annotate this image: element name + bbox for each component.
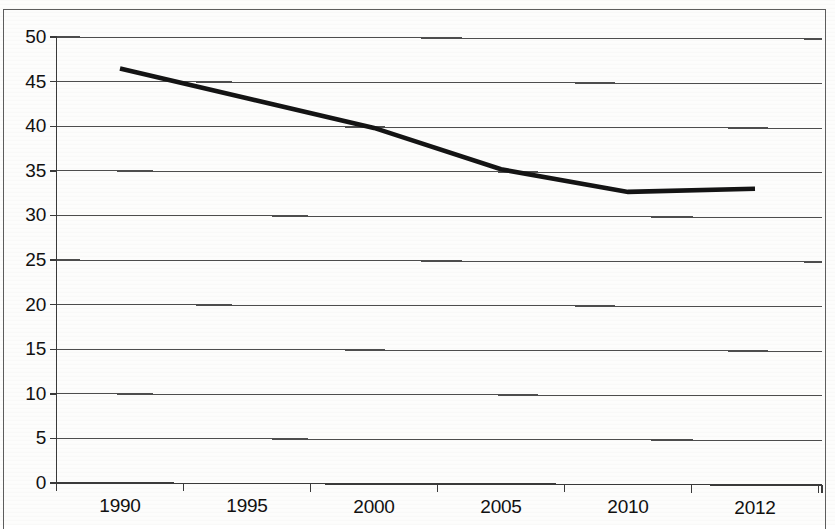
x-axis-tick-label: 2005 [438,496,565,518]
gridline [57,171,823,173]
x-axis-tick-label: 2012 [692,497,819,519]
x-axis-tick-label: 2000 [311,496,438,518]
y-axis-tick-label: 5 [0,427,46,449]
gridline [57,215,823,217]
series-line-1 [120,68,755,191]
y-axis-tick-label: 35 [0,160,46,182]
gridline [57,394,823,396]
y-axis-ticks [50,37,57,483]
x-axis-tick-label: 1995 [184,495,311,517]
x-axis-tick-label: 1990 [57,495,184,517]
y-axis-tick-label: 45 [0,71,46,93]
gridline [57,483,823,485]
data-series-line [120,68,755,191]
gridline [57,126,823,128]
y-axis-tick-label: 15 [0,338,46,360]
y-axis-tick-label: 30 [0,204,46,226]
y-axis-tick-label: 50 [0,26,46,48]
gridline [57,37,823,39]
y-axis-tick-label: 40 [0,115,46,137]
gridline [57,349,823,351]
gridline [57,260,823,262]
y-axis-tick-label: 10 [0,383,46,405]
y-axis-tick-label: 20 [0,294,46,316]
gridline [57,438,823,440]
gridlines [57,37,823,485]
gridline [57,305,823,307]
y-axis-tick-label: 0 [0,472,46,494]
y-axis-tick-label: 25 [0,249,46,271]
x-axis-tick-label: 2010 [565,496,692,518]
